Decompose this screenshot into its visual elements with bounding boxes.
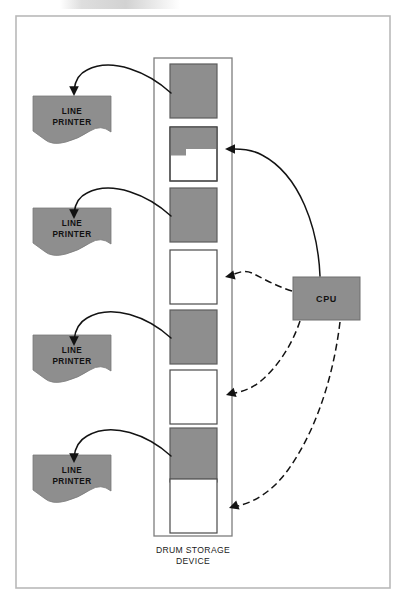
line-printer-2-label-line2: PRINTER [52,230,91,239]
drum-block-8[interactable] [170,479,217,533]
drum-block-5[interactable] [170,310,217,364]
line-printer-1-label-line2: PRINTER [52,118,91,127]
drum-block-2[interactable] [170,127,217,181]
drum-block-7[interactable] [170,428,217,482]
drum-block-1[interactable] [170,64,217,118]
cpu-label: CPU [316,294,337,304]
line-printer-1-label-line1: LINE [62,107,83,116]
line-printer-4-label-line1: LINE [62,466,83,475]
drum-block-4[interactable] [170,250,217,304]
line-printer-3-label-line2: PRINTER [52,357,91,366]
line-printer-3-label-line1: LINE [62,346,83,355]
line-printer-2-label-line1: LINE [62,219,83,228]
drum-block-3[interactable] [170,188,217,242]
figure-page: LINE PRINTER LINE PRINTER LINE PRINTER L… [0,0,405,607]
drum-block-6[interactable] [170,370,217,424]
drum-storage-diagram: LINE PRINTER LINE PRINTER LINE PRINTER L… [0,0,405,607]
line-printer-4-label-line2: PRINTER [52,477,91,486]
drum-caption-line1: DRUM STORAGE [156,545,230,555]
drum-caption-line2: DEVICE [176,556,210,566]
cpu-box[interactable]: CPU [293,277,360,320]
